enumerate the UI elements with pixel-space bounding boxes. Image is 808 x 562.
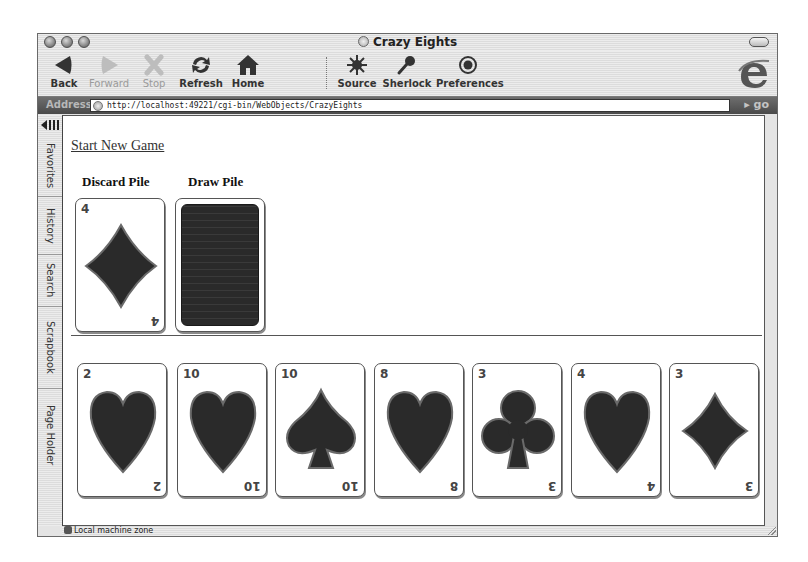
stop-button[interactable]: Stop xyxy=(128,54,180,89)
refresh-button[interactable]: Refresh xyxy=(175,54,227,89)
diamond-suit-icon xyxy=(677,384,753,478)
card-rank-bottom: 3 xyxy=(548,479,556,493)
preferences-label: Preferences xyxy=(436,78,504,89)
window-title-text: Crazy Eights xyxy=(373,35,457,49)
address-label: Address xyxy=(46,99,92,110)
heart-suit-icon xyxy=(185,384,261,478)
hand-card[interactable]: 4 4 xyxy=(571,363,661,497)
hand-card[interactable]: 8 8 xyxy=(374,363,464,497)
explorer-sidebar: Favorites History Search Scrapbook Page … xyxy=(38,115,63,526)
sherlock-button[interactable]: Sherlock xyxy=(381,54,433,89)
page-globe-icon xyxy=(93,101,103,111)
sidebar-tab-history[interactable]: History xyxy=(38,197,62,255)
card-rank-bottom: 10 xyxy=(244,479,261,493)
heart-suit-icon xyxy=(579,384,655,478)
draw-pile-card[interactable] xyxy=(175,198,265,332)
draw-pile-label: Draw Pile xyxy=(188,174,243,190)
zone-icon xyxy=(64,526,72,534)
hand-card[interactable]: 3 3 xyxy=(669,363,759,497)
club-suit-icon xyxy=(480,384,556,478)
forward-arrow-icon xyxy=(97,54,121,76)
tab-label: Page Holder xyxy=(45,405,56,465)
hand-card[interactable]: 2 2 xyxy=(77,363,167,497)
address-bar: Address http://localhost:49221/cgi-bin/W… xyxy=(38,97,777,114)
back-label: Back xyxy=(51,78,78,89)
sidebar-collapse-icon[interactable] xyxy=(40,118,60,132)
spade-suit-icon xyxy=(283,384,359,478)
home-label: Home xyxy=(232,78,264,89)
discard-pile-card[interactable]: 4 4 xyxy=(75,198,165,332)
source-label: Source xyxy=(338,78,377,89)
preferences-target-icon xyxy=(456,54,480,76)
toolbar: Back Forward Stop Refresh Home Source Sh… xyxy=(38,51,777,97)
status-text: Local machine zone xyxy=(74,526,153,535)
address-input[interactable]: http://localhost:49221/cgi-bin/WebObject… xyxy=(90,99,730,112)
hand-card[interactable]: 10 10 xyxy=(177,363,267,497)
card-rank-bottom: 8 xyxy=(450,479,458,493)
card-rank-bottom: 4 xyxy=(151,314,159,328)
card-rank-top: 3 xyxy=(478,367,486,381)
card-rank-top: 10 xyxy=(281,367,298,381)
sidebar-tab-favorites[interactable]: Favorites xyxy=(38,135,62,197)
refresh-icon xyxy=(189,54,213,76)
toolbar-toggle-button[interactable] xyxy=(749,37,769,47)
tab-label: Scrapbook xyxy=(45,321,56,374)
card-back-pattern xyxy=(181,204,259,326)
preferences-button[interactable]: Preferences xyxy=(436,54,500,89)
hand-card[interactable]: 3 3 xyxy=(472,363,562,497)
card-rank-top: 4 xyxy=(577,367,585,381)
page-content: Start New Game Discard Pile Draw Pile 4 … xyxy=(63,115,765,526)
card-rank-top: 3 xyxy=(675,367,683,381)
card-rank-top: 8 xyxy=(380,367,388,381)
discard-pile-label: Discard Pile xyxy=(82,174,150,190)
internet-explorer-logo-icon xyxy=(737,57,771,91)
browser-window: Crazy Eights Back Forward Stop Refresh H… xyxy=(37,33,778,537)
tab-label: History xyxy=(45,208,56,244)
card-rank-bottom: 2 xyxy=(153,479,161,493)
sherlock-label: Sherlock xyxy=(383,78,432,89)
card-rank-top: 4 xyxy=(81,202,89,216)
card-rank-bottom: 3 xyxy=(745,479,753,493)
divider xyxy=(71,335,762,336)
status-bar: Local machine zone xyxy=(62,526,777,536)
start-new-game-link[interactable]: Start New Game xyxy=(71,138,164,154)
diamond-suit-icon xyxy=(83,219,159,313)
card-rank-bottom: 4 xyxy=(647,479,655,493)
stop-x-icon xyxy=(142,54,166,76)
home-button[interactable]: Home xyxy=(222,54,274,89)
sherlock-magnifier-icon xyxy=(395,54,419,76)
title-bar[interactable]: Crazy Eights xyxy=(38,34,777,52)
address-url-text: http://localhost:49221/cgi-bin/WebObject… xyxy=(107,101,362,110)
home-icon xyxy=(236,54,260,76)
card-rank-bottom: 10 xyxy=(342,479,359,493)
sidebar-tab-page-holder[interactable]: Page Holder xyxy=(38,389,62,481)
tab-label: Search xyxy=(45,263,56,297)
sidebar-tab-search[interactable]: Search xyxy=(38,255,62,307)
card-rank-top: 2 xyxy=(83,367,91,381)
sidebar-tab-scrapbook[interactable]: Scrapbook xyxy=(38,307,62,389)
go-button[interactable]: ▸ go xyxy=(744,98,769,111)
toolbar-separator xyxy=(326,57,327,89)
resize-grip-icon[interactable] xyxy=(767,526,776,535)
go-label: go xyxy=(754,98,769,111)
heart-suit-icon xyxy=(382,384,458,478)
card-rank-top: 10 xyxy=(183,367,200,381)
back-arrow-icon xyxy=(52,54,76,76)
forward-label: Forward xyxy=(89,78,129,89)
source-button[interactable]: Source xyxy=(331,54,383,89)
source-starburst-icon xyxy=(345,54,369,76)
stop-label: Stop xyxy=(143,78,166,89)
heart-suit-icon xyxy=(85,384,161,478)
window-title: Crazy Eights xyxy=(38,35,777,49)
tab-label: Favorites xyxy=(45,143,56,188)
refresh-label: Refresh xyxy=(179,78,223,89)
hand-card[interactable]: 10 10 xyxy=(275,363,365,497)
globe-icon xyxy=(358,36,369,47)
